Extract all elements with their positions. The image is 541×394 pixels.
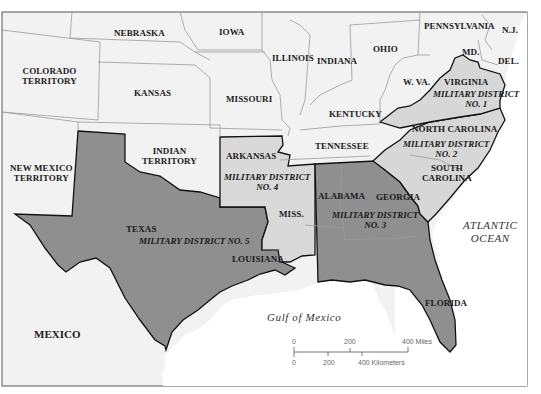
label-new-mexico-line2: TERRITORY <box>14 173 69 183</box>
label-indiana: INDIANA <box>317 56 357 66</box>
label-district-5: MILITARY DISTRICT NO. 5 <box>139 236 250 246</box>
label-kansas: KANSAS <box>134 88 171 98</box>
label-district-4-line1: MILITARY DISTRICT <box>224 172 310 182</box>
label-atlantic-line2: OCEAN <box>471 232 510 244</box>
label-georgia: GEORGIA <box>376 192 420 202</box>
label-texas: TEXAS <box>126 224 157 234</box>
scale-miles-200: 200 <box>344 338 356 345</box>
label-iowa: IOWA <box>219 27 244 37</box>
label-new-mexico-line1: NEW MEXICO <box>10 163 73 173</box>
label-virginia: VIRGINIA <box>444 77 488 87</box>
label-ohio: OHIO <box>373 44 398 54</box>
scale-km-200: 200 <box>323 359 335 366</box>
scale-km-0: 0 <box>292 359 296 366</box>
label-district-2: MILITARY DISTRICTNO. 2 <box>403 139 489 159</box>
label-colorado-line2: TERRITORY <box>22 76 77 86</box>
label-tennessee: TENNESSEE <box>315 141 369 151</box>
label-district-2-line2: NO. 2 <box>435 149 457 159</box>
label-colorado: COLORADOTERRITORY <box>22 66 77 86</box>
label-gulf-of-mexico: Gulf of Mexico <box>267 311 341 324</box>
label-indian-line2: TERRITORY <box>142 156 197 166</box>
label-south-carolina-line1: SOUTH <box>431 163 463 173</box>
label-new-mexico: NEW MEXICOTERRITORY <box>10 163 73 183</box>
label-district-3-line2: NO. 3 <box>364 220 386 230</box>
label-md: MD. <box>462 47 480 57</box>
scale-miles-400: 400 Miles <box>402 338 432 345</box>
label-wva: W. VA. <box>403 77 430 87</box>
label-louisiana: LOUISIANA <box>232 254 284 264</box>
label-colorado-line1: COLORADO <box>23 66 77 76</box>
label-south-carolina: SOUTHCAROLINA <box>422 163 472 183</box>
label-nj: N.J. <box>502 25 518 35</box>
scale-km-400: 400 Kilometers <box>358 359 405 366</box>
label-district-1: MILITARY DISTRICTNO. 1 <box>433 89 519 109</box>
label-district-2-line1: MILITARY DISTRICT <box>403 139 489 149</box>
label-mexico: MEXICO <box>34 328 80 340</box>
scale-miles-0: 0 <box>292 338 296 345</box>
label-del: DEL. <box>498 56 519 66</box>
label-indian-territory: INDIANTERRITORY <box>142 146 197 166</box>
label-alabama: ALABAMA <box>318 191 365 201</box>
map-canvas <box>0 0 541 394</box>
label-district-4: MILITARY DISTRICTNO. 4 <box>224 172 310 192</box>
label-atlantic-line1: ATLANTIC <box>463 219 518 231</box>
label-district-1-line1: MILITARY DISTRICT <box>433 89 519 99</box>
label-south-carolina-line2: CAROLINA <box>422 173 472 183</box>
label-arkansas: ARKANSAS <box>226 151 276 161</box>
label-district-3-line1: MILITARY DISTRICT <box>332 210 418 220</box>
label-nebraska: NEBRASKA <box>114 28 165 38</box>
label-miss: MISS. <box>279 209 304 219</box>
label-florida: FLORIDA <box>425 298 467 308</box>
label-illinois: ILLINOIS <box>272 53 314 63</box>
label-north-carolina: NORTH CAROLINA <box>412 124 497 134</box>
label-district-1-line2: NO. 1 <box>465 99 487 109</box>
label-pennsylvania: PENNSYLVANIA <box>424 21 495 31</box>
label-district-3: MILITARY DISTRICTNO. 3 <box>332 210 418 230</box>
label-district-4-line2: NO. 4 <box>256 182 278 192</box>
label-kentucky: KENTUCKY <box>329 109 382 119</box>
label-missouri: MISSOURI <box>226 94 272 104</box>
label-atlantic-ocean: ATLANTICOCEAN <box>463 219 518 245</box>
label-indian-line1: INDIAN <box>153 146 187 156</box>
